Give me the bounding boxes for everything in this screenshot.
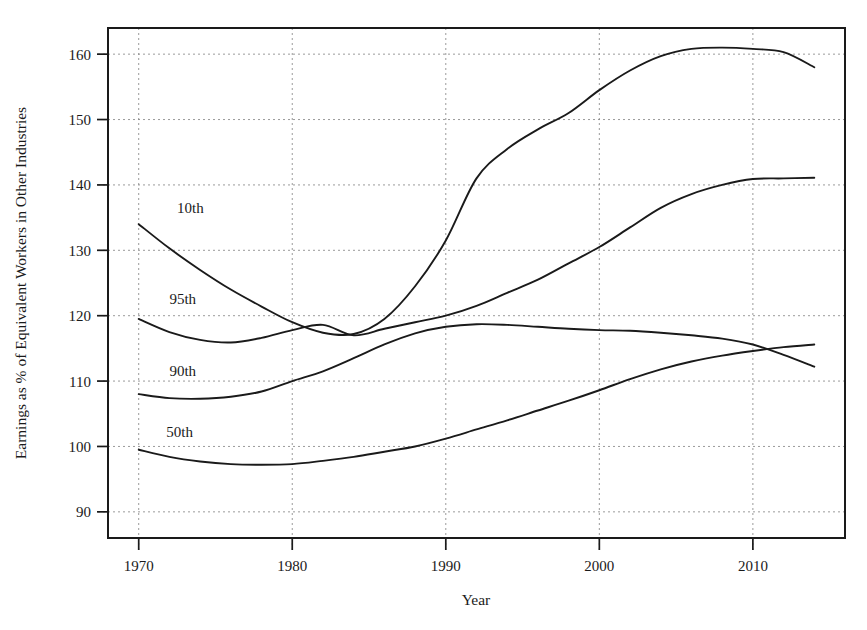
data-series-lines (139, 48, 815, 465)
x-axis-title: Year (462, 591, 491, 608)
x-tick-label: 2010 (738, 558, 768, 574)
x-axis-tick-labels: 19701980199020002010 (124, 558, 768, 574)
series-label-10th: 10th (177, 200, 204, 216)
series-line-10th (139, 48, 815, 336)
y-tick-label: 130 (69, 243, 92, 259)
earnings-line-chart: 19701980199020002010 9010011012013014015… (0, 0, 867, 630)
series-inline-labels: 10th95th90th50th (166, 200, 204, 440)
y-axis-tick-labels: 90100110120130140150160 (69, 47, 92, 521)
series-label-95th: 95th (169, 291, 196, 307)
x-tick-label: 1980 (277, 558, 307, 574)
series-line-90th (139, 324, 815, 399)
series-label-90th: 90th (169, 363, 196, 379)
y-tick-label: 160 (69, 47, 92, 63)
x-tick-label: 1970 (124, 558, 154, 574)
series-label-50th: 50th (166, 424, 193, 440)
y-tick-label: 140 (69, 177, 92, 193)
y-tick-label: 120 (69, 308, 92, 324)
y-tick-label: 100 (69, 439, 92, 455)
x-tick-label: 1990 (431, 558, 461, 574)
x-tick-label: 2000 (584, 558, 614, 574)
y-tick-label: 150 (69, 112, 92, 128)
y-tick-label: 110 (69, 374, 91, 390)
y-axis-title: Earnings as % of Equivalent Workers in O… (12, 107, 29, 459)
gridlines (98, 28, 845, 550)
series-line-95th (139, 178, 815, 343)
series-line-50th (139, 344, 815, 464)
y-tick-label: 90 (76, 504, 91, 520)
